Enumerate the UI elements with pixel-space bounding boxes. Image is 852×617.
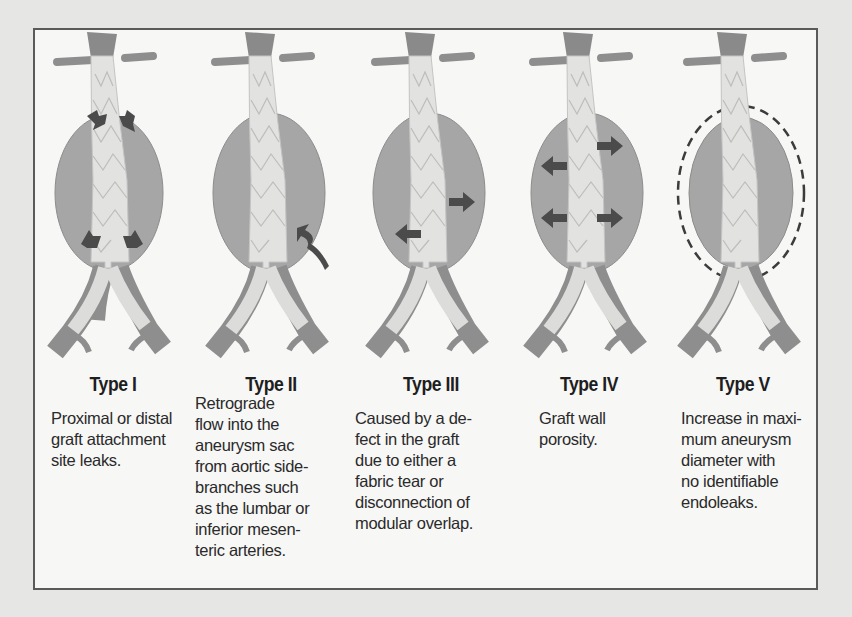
type-5-description: Increase in maxi- mum aneurysm diameter … (681, 408, 802, 513)
type-3-description: Caused by a de- fect in the graft due to… (355, 408, 473, 534)
panel-type-2: Type II Retrograde flow into the aneurys… (193, 30, 349, 588)
panel-type-5: Type V Increase in maxi- mum aneurysm di… (665, 30, 821, 588)
panel-type-1: Type I Proximal or distal graft attachme… (35, 30, 191, 588)
type-1-title: Type I (44, 373, 181, 396)
endoleak-figure-frame: Type I Proximal or distal graft attachme… (33, 28, 818, 590)
type-4-description: Graft wall porosity. (539, 408, 606, 450)
type-4-aneurysm-diagram (511, 30, 667, 370)
type-2-aneurysm-diagram (193, 30, 349, 370)
type-5-title: Type V (674, 373, 811, 396)
type-4-title: Type IV (520, 373, 657, 396)
panel-type-3: Type III Caused by a de- fect in the gra… (353, 30, 509, 588)
type-2-description: Retrograde flow into the aneurysm sac fr… (195, 393, 309, 561)
type-1-aneurysm-diagram (35, 30, 191, 370)
panel-type-4: Type IV Graft wall porosity. (511, 30, 667, 588)
type-5-aneurysm-diagram (665, 30, 821, 370)
type-3-aneurysm-diagram (353, 30, 509, 370)
type-1-description: Proximal or distal graft attachment site… (51, 408, 172, 471)
type-3-title: Type III (362, 373, 499, 396)
